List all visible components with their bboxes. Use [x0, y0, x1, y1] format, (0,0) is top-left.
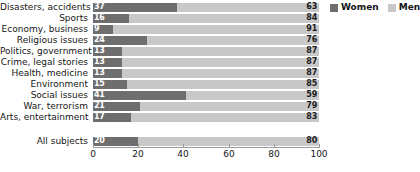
- category-label: All subjects: [0, 136, 88, 146]
- category-label: Religious issues: [0, 35, 88, 45]
- category-label: Arts, entertainment: [0, 112, 88, 122]
- value-label-women: 24: [94, 35, 105, 45]
- value-label-men: 87: [295, 46, 317, 56]
- bar-track: [93, 102, 319, 111]
- chart-row: Disasters, accidents3763: [0, 3, 330, 12]
- bar-track: [93, 137, 319, 146]
- bar-track: [93, 3, 319, 12]
- value-label-women: 13: [94, 46, 105, 56]
- value-label-women: 15: [94, 79, 105, 89]
- value-label-men: 87: [295, 68, 317, 78]
- x-axis-tick-label: 80: [262, 149, 286, 159]
- x-axis-tick-label: 20: [126, 149, 150, 159]
- chart-row: Sports1684: [0, 14, 330, 23]
- value-label-men: 85: [295, 79, 317, 89]
- chart-row: Politics, government1387: [0, 47, 330, 56]
- bar-segment-men: [147, 36, 319, 45]
- x-axis-tick-label: 0: [81, 149, 105, 159]
- value-label-men: 79: [295, 101, 317, 111]
- chart-row: Social issues4159: [0, 91, 330, 100]
- chart-row: Economy, business991: [0, 25, 330, 34]
- category-label: Sports: [0, 13, 88, 23]
- value-label-men: 91: [295, 24, 317, 34]
- value-label-women: 21: [94, 101, 105, 111]
- x-axis-tick-label: 40: [171, 149, 195, 159]
- category-label: Crime, legal stories: [0, 57, 88, 67]
- value-label-men: 63: [295, 2, 317, 12]
- category-label: Health, medicine: [0, 68, 88, 78]
- value-label-men: 59: [295, 90, 317, 100]
- bar-segment-men: [122, 69, 319, 78]
- bar-track: [93, 58, 319, 67]
- bar-segment-men: [122, 47, 319, 56]
- bar-track: [93, 91, 319, 100]
- x-axis-tick: [229, 144, 230, 147]
- bar-track: [93, 69, 319, 78]
- chart-row: Environment1585: [0, 80, 330, 89]
- value-label-women: 17: [94, 112, 105, 122]
- x-axis-tick: [93, 144, 94, 147]
- chart-row: Arts, entertainment1783: [0, 113, 330, 122]
- chart-row: Religious issues2476: [0, 36, 330, 45]
- x-axis-line: [93, 147, 320, 148]
- bar-segment-men: [127, 80, 319, 89]
- value-label-men: 87: [295, 57, 317, 67]
- value-label-men: 76: [295, 35, 317, 45]
- x-axis-tick: [183, 144, 184, 147]
- x-axis-tick: [319, 144, 320, 147]
- chart-row: Crime, legal stories1387: [0, 58, 330, 67]
- bar-segment-men: [113, 25, 319, 34]
- x-axis-tick: [274, 144, 275, 147]
- x-axis-tick-label: 60: [217, 149, 241, 159]
- bar-segment-men: [140, 102, 319, 111]
- value-label-women: 9: [94, 24, 99, 34]
- chart-row: War, terrorism2179: [0, 102, 330, 111]
- bar-track: [93, 25, 319, 34]
- value-label-women: 13: [94, 57, 105, 67]
- x-axis-tick-label: 100: [307, 149, 331, 159]
- chart-row: Health, medicine1387: [0, 69, 330, 78]
- value-label-men: 84: [295, 13, 317, 23]
- bar-segment-women: [93, 91, 186, 100]
- bar-segment-women: [93, 3, 177, 12]
- value-label-women: 13: [94, 68, 105, 78]
- category-label: Economy, business: [0, 24, 88, 34]
- chart-row: All subjects2080: [0, 137, 330, 146]
- bar-segment-men: [129, 14, 319, 23]
- value-label-women: 16: [94, 13, 105, 23]
- bar-segment-men: [131, 113, 319, 122]
- value-label-women: 20: [94, 136, 105, 146]
- value-label-men: 83: [295, 112, 317, 122]
- category-label: Social issues: [0, 90, 88, 100]
- bar-track: [93, 113, 319, 122]
- bar-segment-men: [122, 58, 319, 67]
- bar-track: [93, 47, 319, 56]
- category-label: War, terrorism: [0, 101, 88, 111]
- category-label: Politics, government: [0, 46, 88, 56]
- bar-track: [93, 36, 319, 45]
- value-label-men: 80: [295, 136, 317, 146]
- x-axis-tick: [138, 144, 139, 147]
- category-label: Disasters, accidents: [0, 2, 88, 12]
- bar-track: [93, 14, 319, 23]
- bar-track: [93, 80, 319, 89]
- value-label-women: 41: [94, 90, 105, 100]
- category-label: Environment: [0, 79, 88, 89]
- value-label-women: 37: [94, 2, 105, 12]
